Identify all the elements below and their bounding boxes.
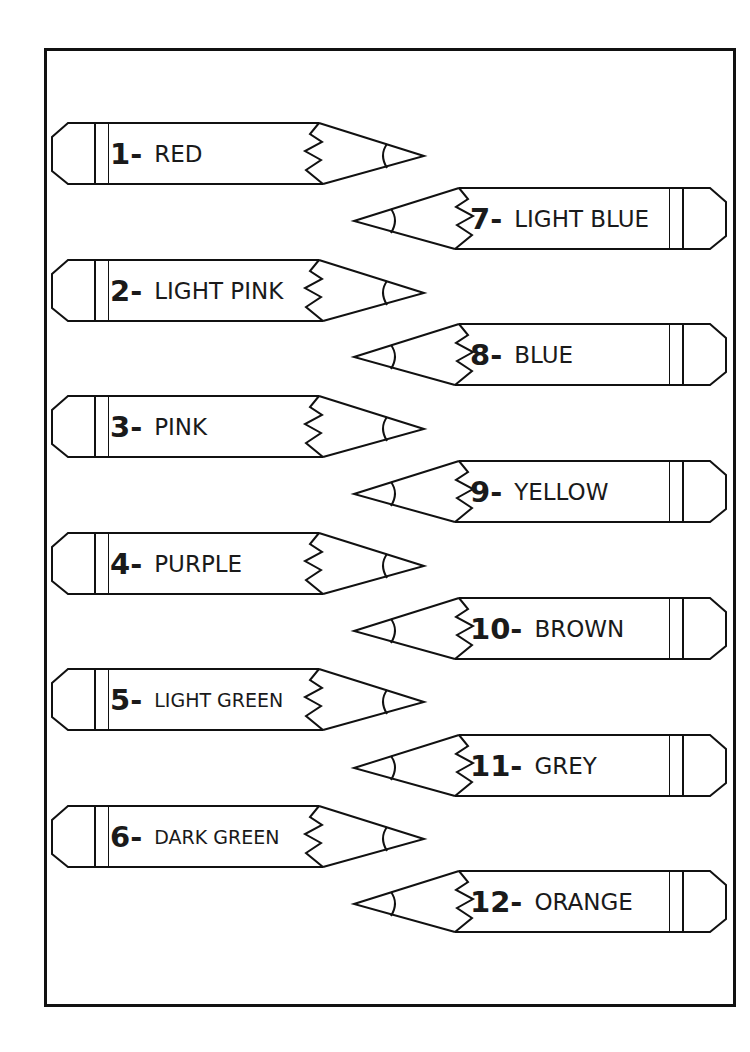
pencil-color-label: DARK GREEN (154, 826, 279, 848)
pencil-icon (48, 120, 428, 188)
pencil-number: 11- (470, 749, 522, 783)
pencil-color-label: LIGHT BLUE (514, 206, 649, 232)
pencil-color-label: LIGHT PINK (154, 278, 283, 304)
pencil-8-blue[interactable]: 8-BLUE (350, 321, 730, 389)
pencil-12-orange[interactable]: 12-ORANGE (350, 868, 730, 936)
pencil-number: 5- (110, 683, 142, 717)
pencil-color-label: YELLOW (514, 479, 608, 505)
pencil-3-pink[interactable]: 3-PINK (48, 393, 428, 461)
pencil-color-label: PINK (154, 414, 207, 440)
pencil-9-yellow[interactable]: 9-YELLOW (350, 458, 730, 526)
pencil-number: 9- (470, 475, 502, 509)
pencil-5-light-green[interactable]: 5-LIGHT GREEN (48, 666, 428, 734)
pencil-icon (48, 393, 428, 461)
pencil-color-label: GREY (534, 753, 596, 779)
pencil-color-label: LIGHT GREEN (154, 689, 283, 711)
pencil-number: 6- (110, 820, 142, 854)
pencil-6-dark-green[interactable]: 6-DARK GREEN (48, 803, 428, 871)
pencil-number: 7- (470, 202, 502, 236)
pencil-number: 10- (470, 612, 522, 646)
pencil-number: 4- (110, 547, 142, 581)
pencil-color-label: PURPLE (154, 551, 242, 577)
pencil-1-red[interactable]: 1-RED (48, 120, 428, 188)
pencil-color-label: BLUE (514, 342, 573, 368)
pencil-color-label: RED (154, 141, 202, 167)
pencil-number: 1- (110, 137, 142, 171)
pencil-7-light-blue[interactable]: 7-LIGHT BLUE (350, 185, 730, 253)
pencil-color-label: ORANGE (534, 889, 632, 915)
pencil-number: 3- (110, 410, 142, 444)
pencil-number: 2- (110, 274, 142, 308)
pencil-color-label: BROWN (534, 616, 624, 642)
pencil-number: 12- (470, 885, 522, 919)
pencil-10-brown[interactable]: 10-BROWN (350, 595, 730, 663)
pencil-2-light-pink[interactable]: 2-LIGHT PINK (48, 257, 428, 325)
pencil-4-purple[interactable]: 4-PURPLE (48, 530, 428, 598)
pencil-11-grey[interactable]: 11-GREY (350, 732, 730, 800)
pencil-number: 8- (470, 338, 502, 372)
